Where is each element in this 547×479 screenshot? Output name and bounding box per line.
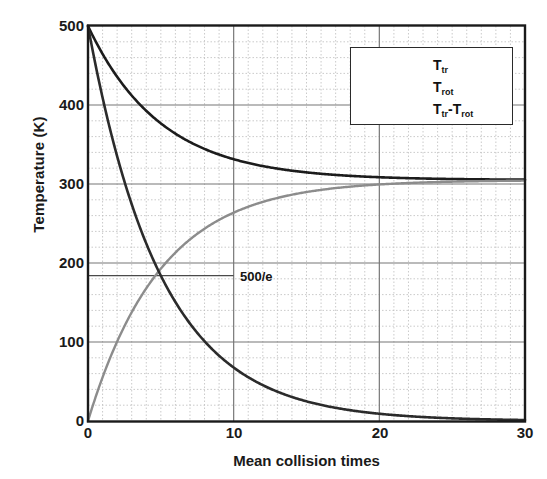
chart-figure: Temperature (K) 500 400 300 200 100 0 0 …: [0, 0, 547, 479]
legend-item-t-tr[interactable]: Ttr: [359, 54, 509, 76]
legend-item-t-diff[interactable]: Ttr-Trot: [359, 98, 509, 120]
legend[interactable]: Ttr Trot Ttr-Trot: [350, 47, 513, 125]
legend-label-t-tr: Ttr: [433, 58, 448, 72]
annotation-500-over-e: 500/e: [240, 269, 273, 284]
legend-item-t-rot[interactable]: Trot: [359, 76, 509, 98]
legend-label-t-rot: Trot: [433, 80, 454, 94]
legend-label-t-diff: Ttr-Trot: [433, 102, 473, 116]
